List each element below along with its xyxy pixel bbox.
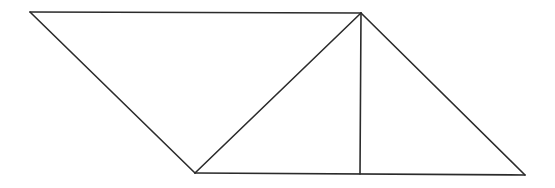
segment-AD bbox=[30, 12, 195, 173]
parallelogram-diagram bbox=[0, 0, 555, 188]
segment-BC bbox=[361, 13, 525, 175]
segment-AB bbox=[30, 12, 361, 13]
segment-DB bbox=[195, 13, 361, 173]
segment-BE bbox=[360, 13, 361, 174]
